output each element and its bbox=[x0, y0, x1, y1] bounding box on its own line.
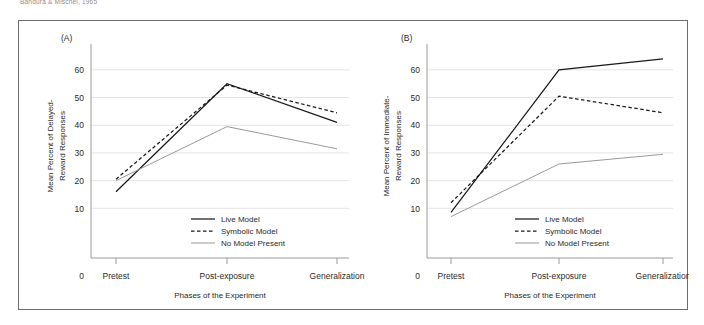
y-tick-label: 10 bbox=[411, 204, 421, 214]
x-tick-label: Post-exposure bbox=[532, 271, 587, 281]
origin-label: 0 bbox=[79, 271, 84, 281]
svg-text:Reward Responses: Reward Responses bbox=[58, 111, 67, 181]
legend-label: No Model Present bbox=[221, 239, 286, 248]
panel-a-chart: 1020304050600PretestPost-exposureGeneral… bbox=[19, 21, 367, 311]
y-tick-label: 20 bbox=[411, 176, 421, 186]
x-axis-title: Phases of the Experiment bbox=[504, 291, 596, 300]
series-line bbox=[116, 127, 337, 181]
legend: Live ModelSymbolic ModelNo Model Present bbox=[191, 215, 286, 248]
series-line bbox=[451, 154, 663, 216]
y-tick-label: 50 bbox=[75, 93, 85, 103]
y-tick-label: 50 bbox=[411, 93, 421, 103]
x-tick-label: Post-exposure bbox=[200, 271, 255, 281]
svg-text:Mean Percent of Delayed-: Mean Percent of Delayed- bbox=[46, 99, 55, 192]
x-tick-label: Generalization bbox=[636, 271, 689, 281]
y-axis-title: Mean Percent of Delayed-Reward Responses bbox=[46, 99, 67, 192]
x-tick-label: Pretest bbox=[103, 271, 131, 281]
y-tick-label: 40 bbox=[411, 120, 421, 130]
svg-text:Reward Responses: Reward Responses bbox=[394, 111, 403, 181]
y-tick-label: 60 bbox=[411, 65, 421, 75]
y-tick-label: 20 bbox=[75, 176, 85, 186]
y-axis-title: Mean Percent of Immediate-Reward Respons… bbox=[382, 95, 403, 196]
series-line bbox=[451, 59, 663, 213]
panel-b-tag: (B) bbox=[401, 33, 412, 43]
legend: Live ModelSymbolic ModelNo Model Present bbox=[515, 215, 610, 248]
origin-label: 0 bbox=[415, 271, 420, 281]
y-tick-label: 30 bbox=[75, 148, 85, 158]
panel-b-chart: 1020304050600PretestPost-exposureGeneral… bbox=[351, 21, 689, 311]
series-line bbox=[116, 84, 337, 192]
legend-label: Symbolic Model bbox=[545, 227, 602, 236]
legend-label: Symbolic Model bbox=[221, 227, 278, 236]
y-tick-label: 10 bbox=[75, 204, 85, 214]
panel-a: (A) 1020304050600PretestPost-exposureGen… bbox=[19, 21, 367, 311]
y-tick-label: 60 bbox=[75, 65, 85, 75]
legend-label: Live Model bbox=[545, 215, 584, 224]
legend-label: No Model Present bbox=[545, 239, 610, 248]
series-line bbox=[116, 85, 337, 179]
series-line bbox=[451, 96, 663, 203]
x-tick-label: Pretest bbox=[438, 271, 466, 281]
y-tick-label: 40 bbox=[75, 120, 85, 130]
y-tick-label: 30 bbox=[411, 148, 421, 158]
figure-caption: Bandura & Mischel, 1965 bbox=[20, 0, 97, 5]
panel-a-tag: (A) bbox=[61, 33, 72, 43]
x-axis-title: Phases of the Experiment bbox=[174, 291, 266, 300]
svg-text:Mean Percent of Immediate-: Mean Percent of Immediate- bbox=[382, 95, 391, 196]
figure-frame: (A) 1020304050600PretestPost-exposureGen… bbox=[18, 20, 688, 310]
legend-label: Live Model bbox=[221, 215, 260, 224]
panel-b: (B) 1020304050600PretestPost-exposureGen… bbox=[351, 21, 689, 311]
